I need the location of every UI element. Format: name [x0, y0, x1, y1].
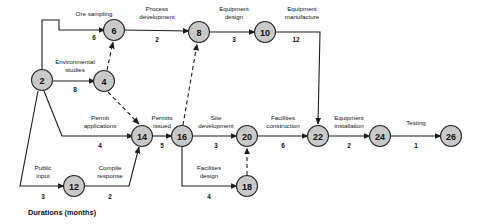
- edge-label-site-development-line1: Site: [211, 114, 222, 121]
- edge-label-public-input-line2: input: [36, 172, 50, 179]
- edge-label-facilities-construction-line1: Facilities: [271, 114, 295, 121]
- edge-label-process-development-line1: Process: [146, 5, 168, 12]
- edge-duration-equipment-installation: 2: [347, 142, 351, 149]
- node-20[interactable]: 20: [237, 126, 258, 147]
- edge-duration-environmental-studies: 8: [73, 86, 77, 93]
- node-12[interactable]: 12: [64, 176, 85, 197]
- edge-label-equipment-design-line2: design: [225, 13, 244, 20]
- edge-public-input: Public input 3: [20, 91, 64, 200]
- edge-label-equipment-manufacture-line2: manufacture: [285, 13, 320, 20]
- edge-duration-site-development: 3: [214, 142, 218, 149]
- edge-duration-public-input: 3: [41, 193, 45, 200]
- edge-compile-response: Compile response 2: [84, 147, 139, 200]
- node-14[interactable]: 14: [132, 126, 153, 147]
- node-10[interactable]: 10: [255, 22, 276, 43]
- edge-label-public-input-line1: Public: [35, 164, 52, 171]
- edge-label-facilities-design-line2: design: [200, 172, 219, 179]
- edge-equipment-installation: Equipment installation 2: [328, 114, 370, 149]
- edge-dummy-4-to-6: [107, 42, 113, 70]
- edge-label-ore-sampling: Ore sampling: [76, 10, 113, 17]
- edge-label-facilities-design-line1: Facilities: [197, 164, 221, 171]
- edge-equipment-manufacture: Equipment manufacture 12: [275, 5, 320, 124]
- edge-duration-compile-response: 2: [108, 193, 112, 200]
- edge-duration-facilities-design: 4: [207, 193, 211, 200]
- edge-label-process-development-line2: development: [139, 13, 175, 20]
- node-18[interactable]: 18: [237, 176, 258, 197]
- node-2[interactable]: 2: [32, 70, 53, 91]
- edge-label-equipment-installation-line1: Equipment: [334, 114, 364, 121]
- edge-duration-equipment-manufacture: 12: [292, 36, 300, 43]
- edge-duration-permit-applications: 4: [98, 142, 102, 149]
- node-16[interactable]: 16: [172, 126, 193, 147]
- edge-process-development: Process development 2: [124, 5, 189, 43]
- node-8[interactable]: 8: [189, 22, 210, 43]
- node-22[interactable]: 22: [308, 126, 329, 147]
- edge-duration-equipment-design: 3: [232, 36, 236, 43]
- edge-duration-facilities-construction: 6: [281, 142, 285, 149]
- edge-label-equipment-installation-line2: installation: [334, 122, 364, 129]
- edge-facilities-design: Facilities design 4: [182, 147, 237, 200]
- edge-label-permits-issued-line2: issued: [153, 122, 171, 129]
- edge-dummy-16-to-8: [183, 44, 197, 125]
- edge-label-compile-response-line1: Compile: [99, 164, 122, 171]
- edge-duration-ore-sampling: 6: [92, 34, 96, 41]
- edge-duration-testing: 1: [414, 142, 418, 149]
- edge-label-equipment-manufacture-line1: Equipment: [287, 5, 317, 12]
- edge-label-testing: Testing: [406, 119, 426, 126]
- edge-site-development: Site development 3: [192, 114, 237, 149]
- edge-testing: Testing 1: [390, 119, 441, 149]
- node-6[interactable]: 6: [104, 20, 125, 41]
- edge-label-equipment-design-line1: Equipment: [219, 5, 249, 12]
- network-diagram-canvas: Ore sampling 6 Process development 2 Equ…: [0, 0, 484, 224]
- edge-permits-issued: Permits issued 5: [152, 114, 173, 149]
- edge-label-permits-issued-line1: Permits: [152, 114, 173, 121]
- edge-label-environmental-studies-line1: Environmental: [55, 58, 95, 65]
- edge-equipment-design: Equipment design 3: [209, 5, 255, 43]
- edge-label-facilities-construction-line2: construction: [266, 122, 300, 129]
- edge-duration-process-development: 2: [155, 36, 159, 43]
- diagram-caption: Durations (months): [28, 208, 97, 217]
- edge-label-permit-applications-line1: Permit: [91, 114, 109, 121]
- edge-dummy-4-to-14: [108, 92, 139, 124]
- edge-label-compile-response-line2: response: [97, 172, 123, 179]
- node-24[interactable]: 24: [370, 126, 391, 147]
- node-26[interactable]: 26: [441, 126, 462, 147]
- network-diagram-svg: Ore sampling 6 Process development 2 Equ…: [0, 0, 484, 224]
- edge-label-permit-applications-line2: applications: [84, 122, 117, 129]
- edge-permit-applications: Permit applications 4: [44, 91, 133, 149]
- node-4[interactable]: 4: [94, 71, 115, 92]
- edge-label-environmental-studies-line2: studies: [65, 66, 85, 73]
- edge-duration-permits-issued: 5: [160, 142, 164, 149]
- edge-facilities-construction: Facilities construction 6: [257, 114, 308, 149]
- edge-environmental-studies: Environmental studies 8: [53, 58, 95, 93]
- edge-label-site-development-line2: development: [198, 122, 234, 129]
